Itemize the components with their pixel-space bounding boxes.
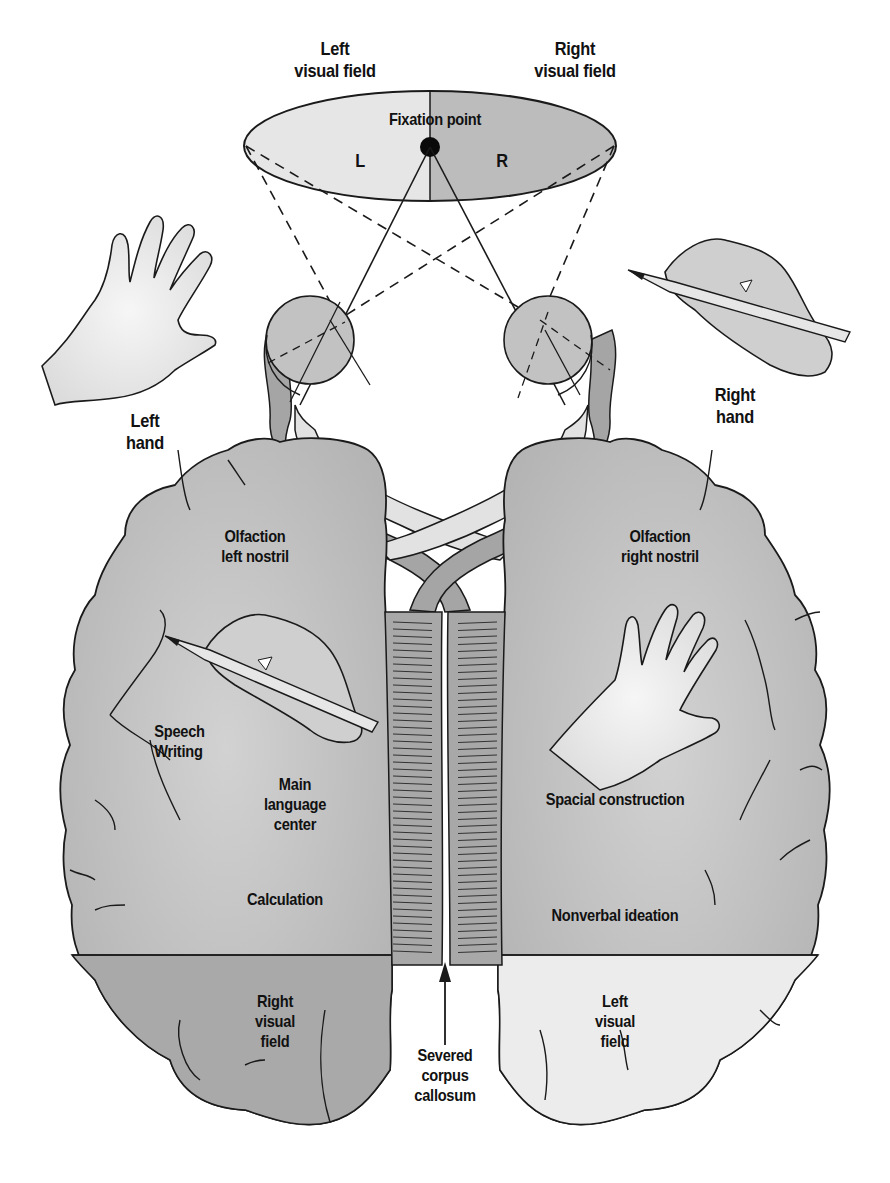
diagram-artwork xyxy=(0,0,890,1183)
label-olfaction-right-nostril: Olfaction right nostril xyxy=(600,527,720,567)
label-spacial-construction: Spacial construction xyxy=(533,790,696,810)
label-right-occipital-left-visual-field: Left visual field xyxy=(572,992,658,1052)
label-calculation: Calculation xyxy=(229,890,341,910)
label-right-hand: Right hand xyxy=(696,384,773,428)
right-hand-pencil xyxy=(628,239,850,376)
label-nonverbal-ideation: Nonverbal ideation xyxy=(542,906,688,926)
label-right-visual-field: Right visual field xyxy=(502,38,648,82)
visual-field-ellipse xyxy=(244,91,616,201)
label-left-occipital-right-visual-field: Right visual field xyxy=(232,992,318,1052)
label-olfaction-left-nostril: Olfaction left nostril xyxy=(203,527,306,567)
left-hand-open xyxy=(42,216,216,405)
label-left-hand: Left hand xyxy=(106,410,183,454)
label-severed-corpus-callosum: Severed corpus callosum xyxy=(398,1046,493,1106)
label-left-visual-field: Left visual field xyxy=(262,38,408,82)
arrow-up-icon xyxy=(439,962,451,1045)
label-left-field-letter: L xyxy=(351,150,368,172)
label-fixation-point: Fixation point xyxy=(366,110,504,130)
corpus-callosum xyxy=(385,612,505,965)
split-brain-diagram: Left visual field Right visual field Fix… xyxy=(0,0,890,1183)
label-main-language-center: Main language center xyxy=(252,775,338,835)
label-speech-writing: Speech Writing xyxy=(154,722,231,762)
label-right-field-letter: R xyxy=(493,150,510,172)
